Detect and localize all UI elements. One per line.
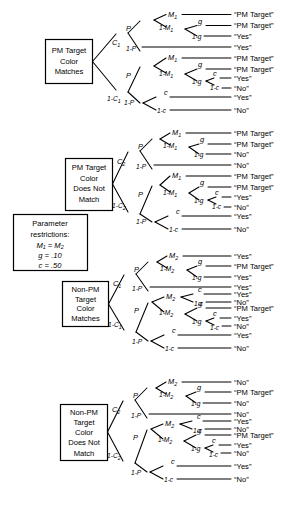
tree-1-label-g-lower: g bbox=[198, 60, 203, 69]
tree-4-outcome-3: “No” bbox=[234, 399, 249, 408]
tree-4-edge-g-upper bbox=[186, 392, 196, 396]
tree-3-box-line-4: Matches bbox=[71, 314, 100, 323]
tree-1-outcome-10: “No” bbox=[234, 106, 249, 115]
tree-1-label-M1-upper: M1 bbox=[168, 10, 177, 20]
tree-1-label-notg-lower: 1-g bbox=[192, 78, 202, 86]
tree-4-box-line-5: Match bbox=[74, 449, 95, 458]
tree-4-box-line-2: Target bbox=[73, 418, 95, 427]
tree-1-label-notg-upper: 1-g bbox=[192, 33, 202, 41]
tree-2-label-notP-lower: 1-P bbox=[136, 218, 147, 225]
tree-4-label-g-upper: g bbox=[197, 383, 202, 392]
tree-1-outcome-9: “Yes” bbox=[234, 93, 252, 102]
tree-2-edge-g-lower bbox=[189, 187, 199, 193]
tree-4-label-notc-notP: 1-c bbox=[164, 476, 174, 483]
tree-4-box-line-4: Does Not bbox=[68, 438, 101, 447]
tree-4-label-notP-lower: 1-P bbox=[131, 469, 142, 476]
tree-2-label-g-lower: g bbox=[200, 178, 205, 187]
tree-2-label-P-lower: P bbox=[138, 190, 143, 199]
tree-2-label-P-upper: P bbox=[138, 142, 143, 151]
tree-1-label-notc-notP: 1-c bbox=[157, 107, 167, 114]
tree-2-label-notg-lower: 1-g bbox=[194, 197, 204, 205]
parameter-restrictions: Parameter restrictions: M1 = M2 g = .10 … bbox=[14, 215, 88, 271]
tree-2-outcome-10: “No” bbox=[234, 225, 249, 234]
tree-4-edge-M2-upper bbox=[156, 382, 166, 388]
param-line-5: c = .50 bbox=[38, 261, 62, 270]
tree-4-outcome-9: “No” bbox=[234, 449, 249, 458]
tree-3-edge-g-upper bbox=[187, 266, 197, 270]
tree-1-edge-notc-notP bbox=[143, 103, 156, 110]
tree-1-edge-M1-upper bbox=[154, 15, 166, 21]
tree-4-label-c-g: c bbox=[212, 436, 216, 445]
tree-2-box-line-1: PM Target bbox=[72, 163, 107, 172]
tree-1-label-M1-lower: M1 bbox=[168, 53, 177, 63]
tree-4-box-line-1: Non-PM bbox=[70, 408, 98, 417]
tree-3-label-notc-notP: 1-c bbox=[165, 345, 175, 352]
tree-4-edge-M2-lower bbox=[151, 424, 163, 429]
tree-2-edge-M1-lower bbox=[160, 176, 170, 185]
tree-4-label-notM2-lower: 1-M2 bbox=[158, 436, 172, 445]
tree-2-box-line-4: Match bbox=[79, 195, 100, 204]
tree-2-outcome-9: “Yes” bbox=[234, 212, 252, 221]
tree-3-edge-M2-upper bbox=[157, 256, 167, 262]
tree-1-outcome-4: “Yes” bbox=[234, 43, 252, 52]
tree-3-edge-c-M2 bbox=[181, 294, 193, 297]
tree-2-label-notg-upper: 1-g bbox=[194, 151, 204, 159]
tree-3-edge-c-g bbox=[206, 318, 214, 321]
tree-3-outcome-7: “PM Target” bbox=[234, 304, 274, 313]
tree-1-outcome-7: “Yes” bbox=[234, 74, 252, 83]
tree-3-label-notg-lower: 1-g bbox=[192, 318, 202, 326]
tree-3-outcome-1: “Yes” bbox=[234, 252, 252, 261]
tree-1-outcome-2: “PM Target” bbox=[234, 21, 274, 30]
tree-3-label-c-g: c bbox=[213, 309, 217, 318]
tree-4-label-M2-upper: M2 bbox=[168, 377, 177, 387]
tree-4-label-P-lower: P bbox=[133, 433, 138, 442]
tree-1-edge-notC1 bbox=[93, 62, 117, 91]
tree-3-outcome-10: “Yes” bbox=[234, 331, 252, 340]
tree-1-edge-M1-lower bbox=[154, 58, 166, 66]
tree-1-edge-g-lower bbox=[185, 69, 197, 74]
tree-1-label-notC1: 1-C1 bbox=[107, 95, 121, 104]
tree-3-outcome-11: “No” bbox=[234, 344, 249, 353]
tree-1-label-P-lower: P bbox=[126, 71, 131, 80]
tree-4-label-c-notP: c bbox=[171, 457, 175, 466]
tree-4-outcome-7: “PM Target” bbox=[234, 431, 274, 440]
tree-4-outcome-1: “No” bbox=[234, 378, 249, 387]
tree-4-edge-c-M2 bbox=[180, 421, 192, 424]
tree-2-label-c-notP: c bbox=[176, 207, 180, 216]
tree-2-outcome-1: “PM Target” bbox=[234, 129, 274, 138]
tree-3-label-notg-upper: 1-g bbox=[192, 274, 202, 282]
tree-1-label-notM1-upper: 1-M1 bbox=[159, 24, 173, 33]
tree-2-label-g-upper: g bbox=[200, 135, 205, 144]
tree-2-box-line-2: Color bbox=[80, 174, 99, 183]
tree-4-label-notg-upper: 1-g bbox=[191, 400, 201, 408]
tree-1-label-g-upper: g bbox=[198, 17, 203, 26]
tree-2-edge-c-notP bbox=[155, 216, 168, 222]
tree-3-label-c-M2: c bbox=[198, 285, 202, 294]
tree-2-outcome-4: “No” bbox=[234, 161, 249, 170]
tree-1-outcome-3: “Yes” bbox=[234, 32, 252, 41]
tree-1-label-notM1-lower: 1-M1 bbox=[159, 70, 173, 79]
tree-2-edge-c-g bbox=[208, 197, 216, 200]
tree-4-label-c-M2: c bbox=[197, 412, 201, 421]
tree-1-label-notP-lower: 1-P bbox=[124, 99, 135, 106]
tree-3-label-C1: C1 bbox=[113, 279, 121, 289]
tree-3-label-M2-lower: M2 bbox=[166, 292, 175, 302]
tree-3-label-c-notP: c bbox=[172, 326, 176, 335]
tree-4-label-M2-lower: M2 bbox=[165, 419, 174, 429]
tree-2-edge-g-upper bbox=[189, 144, 199, 147]
tree-4-label-notP-upper: 1-P bbox=[131, 412, 142, 419]
tree-4-outcome-11: “No” bbox=[234, 475, 249, 484]
tree-2-outcome-2: “PM Target” bbox=[234, 140, 274, 149]
tree-3-box-line-2: Target bbox=[75, 295, 97, 304]
tree-1-edge-g-upper bbox=[185, 26, 197, 30]
tree-1-edge-c-g bbox=[206, 78, 214, 81]
tree-4-edge-g-lower bbox=[184, 435, 196, 441]
tree-3-box-line-3: Color bbox=[76, 304, 95, 313]
tree-2-edge-notc-notP bbox=[155, 222, 168, 229]
param-line-2: restrictions: bbox=[31, 230, 70, 239]
tree-1-box-line-1: PM Target bbox=[52, 46, 87, 55]
tree-3-outcome-3: “Yes” bbox=[234, 273, 252, 282]
tree-3-label-notc-g: 1-c bbox=[210, 324, 220, 331]
tree-3-label-notP-upper: 1-P bbox=[132, 285, 143, 292]
tree-1-label-notP-upper: 1-P bbox=[126, 45, 137, 52]
